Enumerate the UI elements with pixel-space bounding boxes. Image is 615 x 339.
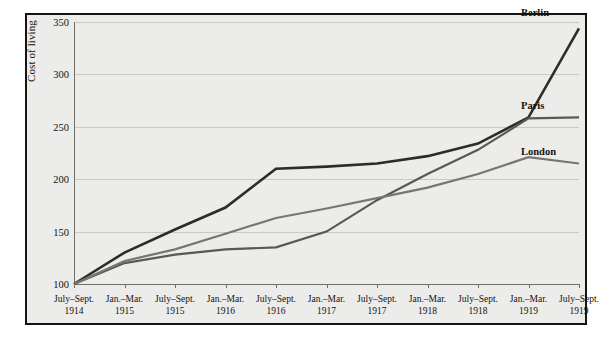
y-tick-label: 350 — [53, 17, 69, 28]
x-tick-label: Jan.–Mar.1919 — [510, 294, 547, 317]
x-tick-label: Jan.–Mar.1915 — [106, 294, 143, 317]
x-tick-label: Jan.–Mar.1918 — [409, 294, 446, 317]
series-line-berlin — [74, 28, 579, 284]
x-tick — [579, 284, 580, 288]
x-tick-label: July–Sept.1916 — [256, 294, 296, 317]
series-label-berlin: Berlin — [521, 7, 549, 18]
y-tick-label: 150 — [53, 226, 69, 237]
x-tick-label: July–Sept.1919 — [559, 294, 599, 317]
x-tick-label: July–Sept.1917 — [357, 294, 397, 317]
y-tick-label: 100 — [53, 279, 69, 290]
plot-area: 100150200250300350 July–Sept.1914Jan.–Ma… — [74, 22, 579, 284]
x-tick-label: Jan.–Mar.1916 — [207, 294, 244, 317]
series-lines — [74, 22, 579, 285]
y-axis-title: Cost of living — [25, 0, 37, 111]
y-tick-label: 250 — [53, 121, 69, 132]
y-tick-label: 200 — [53, 174, 69, 185]
series-line-london — [74, 157, 579, 284]
x-tick-label: July–Sept.1915 — [155, 294, 195, 317]
y-tick-label: 300 — [53, 69, 69, 80]
chart-figure: Cost of living 100150200250300350 July–S… — [25, 13, 587, 325]
series-label-london: London — [521, 146, 556, 157]
x-tick-label: July–Sept.1914 — [54, 294, 94, 317]
series-label-paris: Paris — [521, 100, 544, 111]
series-line-paris — [74, 117, 579, 284]
x-tick-label: Jan.–Mar.1917 — [308, 294, 345, 317]
x-tick-label: July–Sept.1918 — [458, 294, 498, 317]
